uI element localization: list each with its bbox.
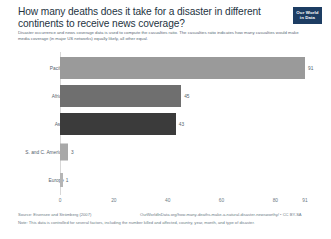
source-text: Source: Eisensee and Strömberg (2007) — [18, 212, 91, 217]
x-axis-tick-label: 20 — [111, 198, 116, 203]
bar-value-label: 1 — [66, 178, 69, 183]
note-text: Note: This data is controlled for severa… — [18, 220, 255, 225]
bar-value-label: 3 — [71, 150, 74, 155]
source-link[interactable]: OurWorldInData.org/how-many-deaths-make-… — [140, 212, 302, 217]
bar-row[interactable]: Pacific91 — [0, 54, 331, 82]
x-axis-tick-label: 0 — [59, 198, 62, 203]
our-world-in-data-logo[interactable]: Our World in Data — [293, 7, 322, 24]
x-axis-tick-label: 91 — [302, 198, 307, 203]
bar-row[interactable]: Asia43 — [0, 110, 331, 138]
x-axis: 02040608091 — [0, 198, 331, 210]
bar-category-label: S. and C. America — [25, 150, 64, 155]
bar-value-label: 45 — [184, 94, 189, 99]
bar[interactable] — [60, 85, 181, 107]
page-title: How many deaths does it take for a disas… — [18, 6, 280, 29]
x-axis-tick-label: 40 — [165, 198, 170, 203]
x-axis-tick-label: 80 — [273, 198, 278, 203]
chart-subtitle: Disaster occurrence and news coverage da… — [18, 30, 303, 41]
bar[interactable] — [60, 113, 176, 135]
bar[interactable] — [60, 173, 63, 187]
logo-line-2: in Data — [293, 15, 322, 20]
chart-header: How many deaths does it take for a disas… — [18, 6, 325, 50]
bar-row[interactable]: S. and C. America3 — [0, 138, 331, 166]
bar-row[interactable]: Africa45 — [0, 82, 331, 110]
bar-row[interactable]: Europe1 — [0, 166, 331, 194]
bar-value-label: 43 — [179, 122, 184, 127]
bar-value-label: 91 — [308, 66, 313, 71]
bar-chart-plot-area: Pacific91Africa45Asia43S. and C. America… — [0, 52, 331, 202]
bar[interactable] — [60, 57, 305, 79]
bar[interactable] — [60, 144, 68, 161]
x-axis-tick-label: 60 — [219, 198, 224, 203]
chart-footer: Source: Eisensee and Strömberg (2007) Ou… — [18, 212, 323, 234]
